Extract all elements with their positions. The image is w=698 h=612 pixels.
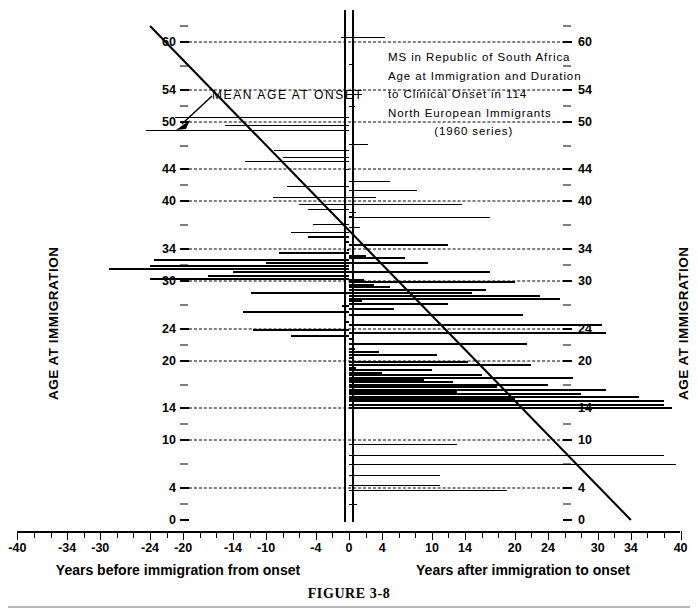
data-bar [347,249,349,251]
zero-axis-line-a [344,10,346,522]
data-bar [349,227,360,228]
data-bar [349,464,676,465]
y-tick-r-0 [563,519,572,521]
y-tick-label-l-4: 4 [150,481,176,495]
y-tick-label-l-34: 34 [150,242,176,256]
y-tick-label-r-20: 20 [578,354,604,368]
data-bar [349,407,672,409]
x-tick-label-34: 34 [624,541,638,555]
data-bar [243,311,349,313]
y-tick-label-l-54: 54 [150,83,176,97]
x-tick-40 [681,531,682,540]
data-bar [283,157,349,158]
x-tick-label-24: 24 [541,541,555,555]
gridline-age-44 [189,169,565,170]
data-bar [349,485,440,486]
y-tick-label-l-50: 50 [150,115,176,129]
y-tick-l-4 [180,487,189,489]
y-tick-label-l-40: 40 [150,194,176,208]
x-tick-label--20: -20 [174,541,192,555]
x-tick-label-4: 4 [379,541,386,555]
y-tick-l-30 [180,280,189,282]
y-minor-tick-r-17 [563,384,571,385]
y-tick-label-l-20: 20 [150,354,176,368]
figure-caption: FIGURE 3-8 [0,586,698,602]
y-tick-r-20 [563,360,572,362]
x-tick-label-30: 30 [591,541,605,555]
data-bar [146,130,349,131]
y-tick-label-r-54: 54 [578,83,604,97]
gridline-age-40 [189,201,565,202]
data-bar [266,262,349,264]
data-bar [349,475,440,476]
data-bar [245,161,349,162]
data-bar [349,343,527,345]
data-bar [349,271,490,273]
data-bar [225,125,349,126]
y-minor-tick-r-27 [563,304,571,305]
data-bar [349,354,437,356]
y-tick-r-4 [563,487,572,489]
y-tick-l-50 [180,121,189,123]
x-tick-label--14: -14 [224,541,242,555]
data-bar [150,278,349,280]
y-tick-l-10 [180,439,189,441]
data-bar [349,364,531,366]
data-bar [346,169,349,170]
gridline-age-24 [189,328,565,329]
y-tick-l-40 [180,200,189,202]
title-line-3: to Clinical Onset in 114 [388,85,581,104]
y-tick-r-24 [563,328,572,330]
data-bar [349,281,515,283]
data-bar [251,292,349,294]
y-tick-label-l-30: 30 [150,274,176,288]
y-minor-tick-l-52 [180,105,188,106]
data-bar [349,37,385,38]
y-tick-r-30 [563,280,572,282]
data-bar [150,265,349,267]
data-bar [349,181,390,182]
y-minor-tick-l-57 [180,65,188,66]
y-tick-l-60 [180,41,189,43]
gridline-age-60 [189,41,565,42]
y-tick-label-r-60: 60 [578,35,604,49]
data-bar [349,490,507,491]
y-minor-tick-l-37 [180,225,188,226]
y-tick-l-0 [180,519,189,521]
y-tick-label-l-14: 14 [150,401,176,415]
y-minor-tick-r-42 [563,185,571,186]
x-tick-label--24: -24 [141,541,159,555]
data-bar [291,232,349,233]
data-bar [349,314,523,316]
y-tick-l-14 [180,407,189,409]
title-line-4: North European Immigrants [388,104,581,123]
x-tick-label--4: -4 [310,541,321,555]
data-bar [349,190,417,191]
y-tick-label-r-30: 30 [578,274,604,288]
y-tick-r-34 [563,248,572,250]
data-bar [349,298,560,300]
x-axis-line [17,531,680,533]
y-minor-tick-l-42 [180,185,188,186]
x-caption-left: Years before immigration from onset [56,562,300,578]
y-minor-tick-l-12 [180,424,188,425]
x-tick-label--30: -30 [91,541,109,555]
data-bar [349,292,472,294]
data-bar [253,329,349,331]
y-minor-tick-r-2 [563,504,571,505]
footer-rule [8,606,690,608]
data-bar [349,332,606,334]
y-minor-tick-l-2 [180,504,188,505]
data-bar [349,262,428,264]
data-bar [349,455,664,456]
data-bar [349,404,664,406]
mean-age-at-onset-label: MEAN AGE AT ONSET [212,88,363,102]
title-series-line: (1960 series) [388,122,581,141]
y-tick-l-24 [180,328,189,330]
gridline-age-4 [189,488,565,489]
data-bar [308,209,349,210]
y-tick-r-44 [563,168,572,170]
data-bar [349,361,468,363]
y-minor-tick-l-17 [180,384,188,385]
x-tick-label-40: 40 [674,541,688,555]
